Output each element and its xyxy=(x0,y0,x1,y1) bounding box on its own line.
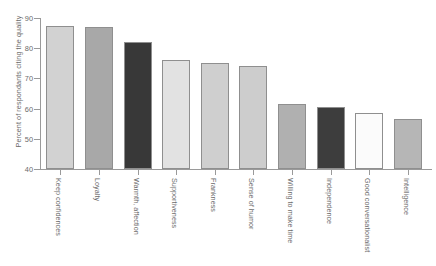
x-axis-tick-label: Keep confidences xyxy=(54,178,63,266)
y-axis-tick xyxy=(34,78,40,79)
y-axis-tick xyxy=(34,139,40,140)
bar xyxy=(394,119,422,169)
bar xyxy=(85,27,113,169)
x-axis-tick-label: Supportiveness xyxy=(170,178,179,266)
y-axis-tick xyxy=(34,109,40,110)
x-axis-tick xyxy=(60,170,61,175)
x-axis-tick xyxy=(99,170,100,175)
x-axis-tick xyxy=(215,170,216,175)
y-axis-tick-label: 60 xyxy=(20,105,33,114)
bar xyxy=(162,60,190,169)
bar xyxy=(124,42,152,169)
y-axis-tick-label: 40 xyxy=(20,165,33,174)
x-axis-tick xyxy=(138,170,139,175)
x-axis-tick-label: Loyalty xyxy=(93,178,102,266)
x-axis-tick-label: Frankness xyxy=(209,178,218,266)
x-axis-tick xyxy=(292,170,293,175)
y-axis-tick-label: 50 xyxy=(20,135,33,144)
x-axis-tick-label: Sense of humor xyxy=(247,178,256,266)
x-axis-tick xyxy=(331,170,332,175)
x-axis-tick-label: Good conversationalist xyxy=(363,178,372,266)
x-axis-tick xyxy=(253,170,254,175)
y-axis-tick xyxy=(34,18,40,19)
bar xyxy=(201,63,229,169)
plot-area xyxy=(41,18,427,169)
x-axis-tick xyxy=(176,170,177,175)
bar xyxy=(278,104,306,169)
y-axis-tick xyxy=(34,48,40,49)
bar xyxy=(239,66,267,169)
bar-chart: Percent of respondants citing the qualit… xyxy=(0,0,436,266)
bar xyxy=(46,26,74,169)
y-axis-tick-label: 70 xyxy=(20,74,33,83)
bar xyxy=(317,107,345,169)
bar xyxy=(355,113,383,169)
y-axis-tick-label: 90 xyxy=(20,14,33,23)
x-axis-tick-label: Independence xyxy=(325,178,334,266)
x-axis-tick-label: Intelligence xyxy=(402,178,411,266)
x-axis-tick xyxy=(408,170,409,175)
y-axis-tick-label: 80 xyxy=(20,44,33,53)
x-axis-tick xyxy=(369,170,370,175)
x-axis-tick-label: Willing to make time xyxy=(286,178,295,266)
x-axis-tick-label: Warmth, affection xyxy=(132,178,141,266)
